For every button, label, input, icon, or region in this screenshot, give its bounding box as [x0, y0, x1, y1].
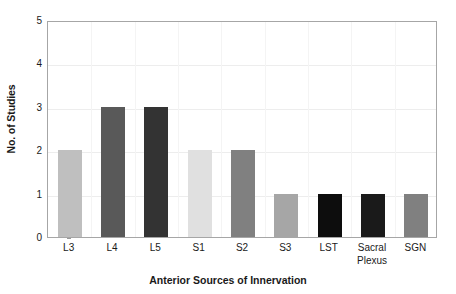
bar[interactable] [188, 150, 212, 237]
plot-area [47, 21, 437, 238]
y-tick-label: 4 [24, 59, 42, 69]
x-tick-label: S3 [264, 242, 307, 255]
x-tick-label: S2 [220, 242, 263, 255]
y-axis-title-text: No. of Studies [5, 84, 17, 153]
x-tick-label: S1 [177, 242, 220, 255]
bar[interactable] [231, 150, 255, 237]
y-tick-mark [67, 238, 71, 239]
bars-layer [48, 22, 436, 237]
x-tick-label: SacralPlexus [350, 242, 393, 267]
bar[interactable] [101, 107, 125, 237]
x-axis-tick-labels: L3L4L5S1S2S3LSTSacralPlexusSGN [47, 242, 437, 274]
y-tick-label: 0 [24, 233, 42, 243]
x-tick-label-line: SGN [394, 242, 437, 255]
bar[interactable] [274, 194, 298, 237]
bar-slot [178, 22, 221, 237]
y-tick-label: 5 [24, 16, 42, 26]
x-tick-label-line: S3 [264, 242, 307, 255]
y-tick-label: 2 [24, 146, 42, 156]
x-tick-label-line: LST [307, 242, 350, 255]
x-tick-label-line: S2 [220, 242, 263, 255]
x-tick-label: SGN [394, 242, 437, 255]
bar-chart: No. of Studies 012345 L3L4L5S1S2S3LSTSac… [0, 0, 456, 294]
bar-slot [91, 22, 134, 237]
bar[interactable] [318, 194, 342, 237]
bar-slot [265, 22, 308, 237]
x-tick-label: L5 [134, 242, 177, 255]
bar-slot [308, 22, 351, 237]
bar[interactable] [144, 107, 168, 237]
bar-slot [135, 22, 178, 237]
bar[interactable] [58, 150, 82, 237]
bar-slot [395, 22, 438, 237]
x-tick-label: LST [307, 242, 350, 255]
bar-slot [221, 22, 264, 237]
y-axis-tick-labels: 012345 [24, 21, 42, 238]
x-tick-label-line: L5 [134, 242, 177, 255]
bar[interactable] [404, 194, 428, 237]
bar-slot [351, 22, 394, 237]
y-tick-label: 1 [24, 190, 42, 200]
x-tick-label-line: Sacral [350, 242, 393, 255]
x-tick-label-line: L4 [90, 242, 133, 255]
x-tick-label-line: L3 [47, 242, 90, 255]
bar-slot [48, 22, 91, 237]
x-tick-label: L4 [90, 242, 133, 255]
x-tick-label-line: Plexus [350, 255, 393, 268]
y-tick-label: 3 [24, 103, 42, 113]
x-axis-title: Anterior Sources of Innervation [0, 274, 456, 286]
x-tick-label: L3 [47, 242, 90, 255]
bar[interactable] [361, 194, 385, 237]
y-axis-title: No. of Studies [0, 0, 22, 238]
x-tick-label-line: S1 [177, 242, 220, 255]
